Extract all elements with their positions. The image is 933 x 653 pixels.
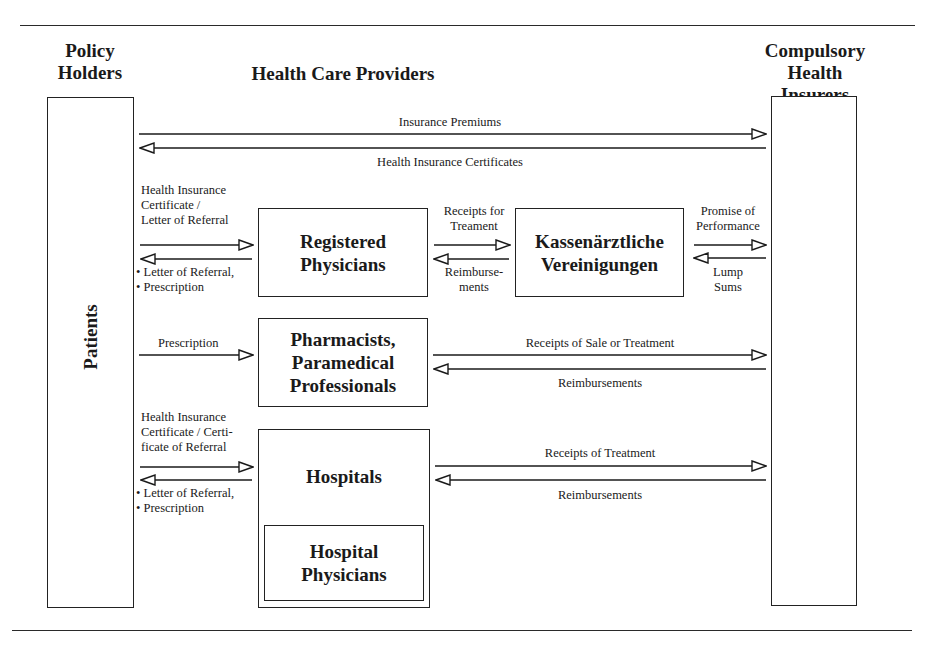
label-kv-to-insurer: Promise of Performance — [684, 204, 772, 234]
label-insurer-to-kv: Lump Sums — [690, 265, 766, 295]
label-hospital-to-patient: • Letter of Referral, • Prescription — [136, 486, 234, 516]
label-insurer-to-hospital: Reimbursements — [500, 488, 700, 503]
label-physician-to-kv: Receipts for Treament — [427, 204, 521, 234]
label-pharmacist-to-insurer: Receipts of Sale or Treatment — [480, 336, 720, 351]
label-hospital-to-insurer: Receipts of Treatment — [500, 446, 700, 461]
flow-arrows — [0, 0, 933, 653]
label-health-insurance-certificates: Health Insurance Certificates — [330, 155, 570, 170]
label-physician-to-patient: • Letter of Referral, • Prescription — [136, 265, 234, 295]
label-insurance-premiums: Insurance Premiums — [350, 115, 550, 130]
label-patient-to-pharmacist: Prescription — [158, 336, 218, 351]
label-kv-to-physician: Reimburse- ments — [427, 265, 521, 295]
label-patient-to-hospital: Health Insurance Certificate / Certi- fi… — [141, 410, 233, 455]
label-patient-to-physician: Health Insurance Certificate / Letter of… — [141, 183, 228, 228]
label-insurer-to-pharmacist: Reimbursements — [500, 376, 700, 391]
